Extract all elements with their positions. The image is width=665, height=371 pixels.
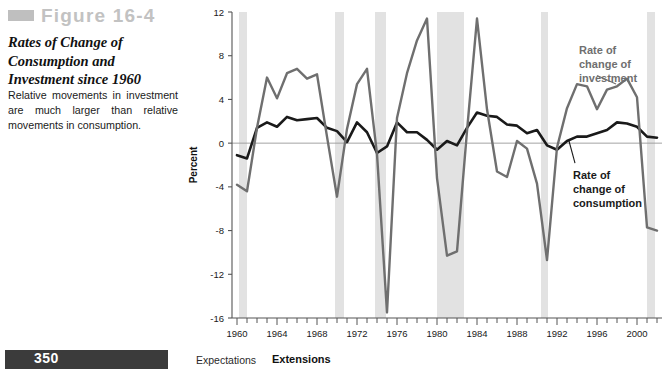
figure-header: Figure 16-4 bbox=[8, 6, 156, 25]
rates-of-change-line-chart: -16-12-8-404812 196019641968197219761980… bbox=[186, 0, 665, 345]
consumption-label: Rate ofchange ofconsumption bbox=[573, 169, 642, 209]
recession-band bbox=[437, 12, 464, 318]
recession-band bbox=[239, 12, 247, 318]
y-axis-tick-label: -16 bbox=[210, 313, 224, 324]
y-axis-tick-label: -8 bbox=[216, 225, 224, 236]
axis-titles: Percent bbox=[188, 146, 199, 183]
y-axis-tick-label: -4 bbox=[216, 181, 224, 192]
x-axis-tick-label: 1968 bbox=[306, 328, 327, 339]
annotations-group: Rate ofchange ofinvestmentRate ofchange … bbox=[569, 44, 642, 210]
figure-page: Figure 16-4 Rates of Change of Consumpti… bbox=[0, 0, 665, 371]
x-axis-tick-label: 1992 bbox=[546, 328, 567, 339]
footer-chapter-name: Expectations bbox=[196, 354, 256, 366]
investment-label: Rate ofchange ofinvestment bbox=[579, 44, 637, 84]
recession-band bbox=[541, 12, 548, 318]
x-axis-tick-label: 1988 bbox=[506, 328, 527, 339]
x-axis-tick-label: 2000 bbox=[626, 328, 647, 339]
page-number: 350 bbox=[34, 351, 59, 365]
caption-column: Figure 16-4 Rates of Change of Consumpti… bbox=[0, 0, 186, 340]
plot-wrapper: -16-12-8-404812 196019641968197219761980… bbox=[186, 0, 665, 345]
recession-band bbox=[647, 12, 655, 318]
figure-title: Rates of Change of Consumption and Inves… bbox=[8, 33, 180, 89]
x-axis-tick-label: 1984 bbox=[466, 328, 487, 339]
x-axis-tick-label: 1960 bbox=[226, 328, 247, 339]
page-number-bar bbox=[5, 350, 168, 369]
x-axis-tick-label: 1964 bbox=[266, 328, 287, 339]
x-axis-tick-label: 1976 bbox=[386, 328, 407, 339]
footer-section-name: Extensions bbox=[272, 353, 331, 365]
x-axis-tick-label: 1980 bbox=[426, 328, 447, 339]
y-axis-tick-label: 12 bbox=[213, 7, 224, 18]
y-axis-tick-label: 8 bbox=[219, 50, 224, 61]
figure-label: Figure 16-4 bbox=[41, 6, 156, 25]
y-axis-tick-label: -12 bbox=[210, 269, 224, 280]
x-axis-tick-label: 1996 bbox=[586, 328, 607, 339]
page-footer: 350 Expectations Extensions bbox=[0, 345, 665, 371]
figure-description: Relative movements in investment are muc… bbox=[8, 88, 178, 134]
y-axis-tick-label: 4 bbox=[219, 94, 224, 105]
x-axis: 1960196419681972197619801984198819921996… bbox=[226, 318, 662, 339]
y-axis-tick-label: 0 bbox=[219, 138, 224, 149]
y-axis-title: Percent bbox=[188, 146, 199, 183]
consumption-leader-line bbox=[569, 141, 575, 163]
x-axis-tick-label: 1972 bbox=[346, 328, 367, 339]
figure-marker-icon bbox=[8, 10, 34, 21]
y-axis: -16-12-8-404812 bbox=[210, 7, 232, 324]
chart-area: -16-12-8-404812 196019641968197219761980… bbox=[186, 0, 665, 345]
